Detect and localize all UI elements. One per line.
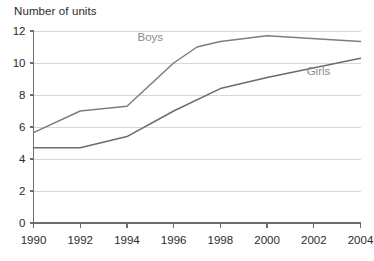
series-line-boys (34, 36, 361, 133)
x-axis-tick-label: 1996 (161, 234, 187, 246)
x-axis-tick-label: 1990 (21, 234, 47, 246)
y-axis-tick-label: 6 (19, 121, 25, 133)
series-label-girls: Girls (307, 65, 331, 77)
y-axis-tick-label: 12 (13, 25, 26, 37)
x-axis-tick-label: 1994 (114, 234, 140, 246)
y-axis-tick-label: 8 (19, 89, 25, 101)
y-axis-tick-label: 4 (19, 153, 26, 165)
x-axis-tick-label: 2004 (348, 234, 374, 246)
y-axis-tick-label: 2 (19, 185, 25, 197)
x-axis-tick-label: 1992 (67, 234, 93, 246)
x-axis-tick-label: 1998 (208, 234, 234, 246)
y-axis-tick-label: 0 (19, 217, 25, 229)
x-axis-tick-label: 2000 (254, 234, 280, 246)
line-chart: Number of units 024681012 19901992199419… (0, 0, 374, 261)
y-axis-tick-label: 10 (13, 57, 26, 69)
x-axis-tick-label: 2002 (301, 234, 327, 246)
chart-plot-area: 024681012 199019921994199619982000200220… (0, 0, 374, 261)
series-label-boys: Boys (137, 31, 163, 43)
x-axis-ticks: 19901992199419961998200020022004 (21, 223, 374, 246)
data-series (34, 36, 361, 148)
y-axis-ticks: 024681012 (13, 25, 34, 229)
